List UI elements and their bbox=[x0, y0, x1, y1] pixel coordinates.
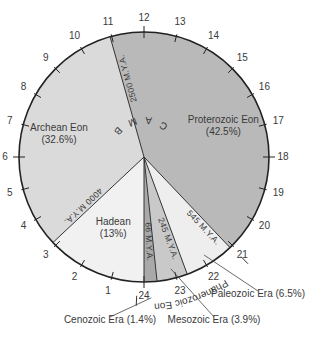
hour-label-9: 9 bbox=[43, 52, 49, 63]
hour-label-5: 5 bbox=[7, 187, 13, 198]
label-hadean-line: Hadean bbox=[96, 216, 131, 227]
hour-label-2: 2 bbox=[72, 271, 78, 282]
hour-label-4: 4 bbox=[21, 220, 27, 231]
hour-label-17: 17 bbox=[273, 115, 285, 126]
label-proterozoic-line: (42.5%) bbox=[206, 126, 241, 137]
hour-label-18: 18 bbox=[277, 151, 289, 162]
label-paleozoic-era: Paleozoic Era (6.5%) bbox=[211, 288, 305, 299]
hour-label-8: 8 bbox=[21, 81, 27, 92]
hour-label-20: 20 bbox=[259, 220, 271, 231]
hour-label-15: 15 bbox=[237, 52, 249, 63]
label-archean-line: Archean Eon bbox=[30, 122, 88, 133]
hour-label-22: 22 bbox=[208, 271, 220, 282]
label-proterozoic-line: Proterozoic Eon bbox=[188, 114, 259, 125]
label-hadean-line: (13%) bbox=[100, 228, 127, 239]
hour-label-12: 12 bbox=[138, 12, 150, 23]
geologic-clock-diagram: 123456789101112131415161718192021222324 … bbox=[0, 0, 334, 352]
label-cenozoic-era: Cenozoic Era (1.4%) bbox=[64, 314, 156, 325]
label-archean-line: (32.6%) bbox=[41, 134, 76, 145]
hour-label-10: 10 bbox=[69, 30, 81, 41]
hour-label-11: 11 bbox=[103, 16, 114, 27]
hour-label-14: 14 bbox=[208, 30, 220, 41]
hour-label-3: 3 bbox=[43, 249, 49, 260]
hour-label-16: 16 bbox=[259, 81, 271, 92]
hour-label-7: 7 bbox=[7, 115, 13, 126]
label-hadean: Hadean(13%) bbox=[96, 216, 131, 239]
hour-label-13: 13 bbox=[174, 16, 186, 27]
hour-label-23: 23 bbox=[174, 285, 186, 296]
label-66mya: 66 M.Y.A. bbox=[143, 222, 155, 261]
hour-label-6: 6 bbox=[2, 151, 8, 162]
hour-label-19: 19 bbox=[273, 187, 285, 198]
hour-label-1: 1 bbox=[105, 285, 111, 296]
label-mesozoic-era: Mesozoic Era (3.9%) bbox=[168, 314, 261, 325]
